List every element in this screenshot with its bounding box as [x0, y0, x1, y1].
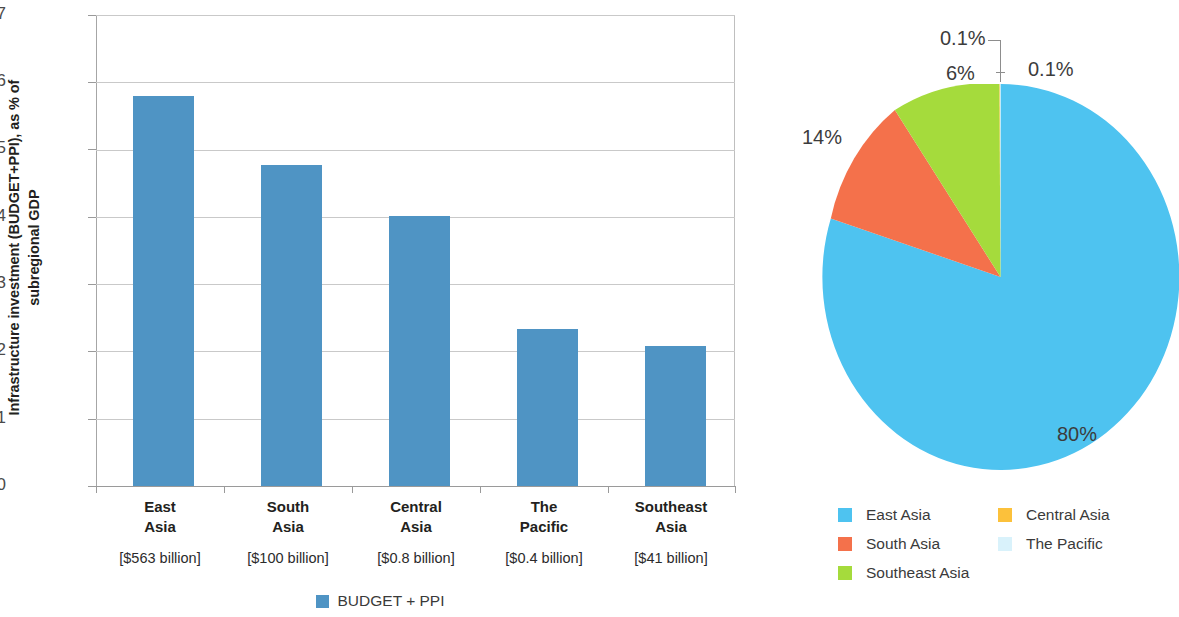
- x-label-the-pacific-line1: The: [531, 498, 558, 515]
- y-tick-mark-4: [88, 217, 96, 218]
- x-sublabel-central-asia: [$0.8 billion]: [346, 550, 486, 566]
- pie-legend-label-southeast-asia: Southeast Asia: [866, 564, 969, 582]
- pie-value-southeast-asia: 6%: [946, 62, 975, 85]
- pie-legend-label-south-asia: South Asia: [866, 535, 940, 553]
- pie-chart-legend: East Asia Central Asia South Asia The Pa…: [838, 500, 1168, 587]
- pie-legend-label-central-asia: Central Asia: [1026, 506, 1110, 524]
- bar-the-pacific[interactable]: [517, 329, 578, 486]
- x-tick-mark-1: [224, 486, 225, 493]
- pie-value-east-asia: 80%: [1057, 423, 1097, 446]
- gridline-7: [96, 15, 735, 16]
- y-tick-label-1: 1: [0, 408, 6, 428]
- x-label-southeast-asia: Southeast Asia: [607, 497, 735, 538]
- leader-line-horizontal-outer: [988, 40, 1001, 41]
- x-label-south-asia: South Asia: [224, 497, 352, 538]
- bar-southeast-asia[interactable]: [645, 346, 706, 486]
- pie-legend-item-the-pacific[interactable]: The Pacific: [998, 535, 1168, 553]
- pie-legend-item-central-asia[interactable]: Central Asia: [998, 506, 1168, 524]
- pie-legend-swatch-the-pacific: [998, 537, 1012, 551]
- y-tick-label-4: 4: [0, 206, 6, 226]
- y-tick-mark-1: [88, 419, 96, 420]
- leader-line-horizontal-inner: [996, 72, 1005, 73]
- pie-legend-swatch-east-asia: [838, 508, 852, 522]
- pie-svg: [822, 84, 1179, 470]
- x-label-the-pacific-line2: Pacific: [520, 518, 568, 535]
- y-tick-label-2: 2: [0, 340, 6, 360]
- x-label-the-pacific: The Pacific: [480, 497, 608, 538]
- y-tick-label-7: 7: [0, 4, 6, 24]
- y-tick-mark-2: [88, 351, 96, 352]
- x-tick-mark-0: [96, 486, 97, 493]
- pie-legend-item-east-asia[interactable]: East Asia: [838, 506, 998, 524]
- pie-legend-item-south-asia[interactable]: South Asia: [838, 535, 998, 553]
- x-label-central-asia: Central Asia: [352, 497, 480, 538]
- legend-swatch-budget-ppi: [316, 595, 329, 608]
- x-tick-mark-5: [735, 486, 736, 493]
- x-label-east-asia-line2: Asia: [144, 518, 176, 535]
- pie-value-the-pacific: 0.1%: [1028, 58, 1074, 81]
- x-label-central-asia-line1: Central: [390, 498, 442, 515]
- pie-legend-swatch-south-asia: [838, 537, 852, 551]
- x-tick-mark-2: [352, 486, 353, 493]
- bar-chart-figure: Infrastructure investment (BUDGET+PPI), …: [0, 0, 760, 617]
- x-label-central-asia-line2: Asia: [400, 518, 432, 535]
- gridline-6: [96, 82, 735, 83]
- x-label-southeast-asia-line2: Asia: [655, 518, 687, 535]
- y-tick-mark-0: [88, 486, 96, 487]
- y-tick-label-5: 5: [0, 138, 6, 158]
- y-tick-mark-3: [88, 284, 96, 285]
- bar-east-asia[interactable]: [133, 96, 194, 486]
- pie-legend-swatch-southeast-asia: [838, 566, 852, 580]
- x-axis-line: [96, 486, 735, 487]
- x-sublabel-east-asia: [$563 billion]: [90, 550, 230, 566]
- y-tick-label-3: 3: [0, 273, 6, 293]
- y-tick-label-6: 6: [0, 71, 6, 91]
- bar-central-asia[interactable]: [389, 216, 450, 486]
- x-label-south-asia-line1: South: [267, 498, 310, 515]
- pie-legend-label-the-pacific: The Pacific: [1026, 535, 1103, 553]
- x-sublabel-south-asia: [$100 billion]: [218, 550, 358, 566]
- x-label-east-asia-line1: East: [144, 498, 176, 515]
- y-axis-title: Infrastructure investment (BUDGET+PPI), …: [5, 48, 44, 448]
- pie-value-south-asia: 14%: [802, 126, 842, 149]
- x-sublabel-the-pacific: [$0.4 billion]: [474, 550, 614, 566]
- x-sublabel-southeast-asia: [$41 billion]: [601, 550, 741, 566]
- x-tick-mark-4: [608, 486, 609, 493]
- leader-line-vertical-outer: [1000, 40, 1001, 82]
- x-label-southeast-asia-line1: Southeast: [635, 498, 708, 515]
- y-tick-mark-7: [88, 15, 96, 16]
- x-label-east-asia: East Asia: [96, 497, 224, 538]
- legend-label-budget-ppi: BUDGET + PPI: [338, 592, 445, 610]
- pie-legend-swatch-central-asia: [998, 508, 1012, 522]
- pie-legend-label-east-asia: East Asia: [866, 506, 931, 524]
- y-tick-label-0: 0: [0, 475, 6, 495]
- bar-plot-area: [96, 15, 735, 486]
- plot-right-border: [734, 15, 735, 486]
- y-tick-mark-5: [88, 149, 96, 150]
- pie-legend-item-southeast-asia[interactable]: Southeast Asia: [838, 564, 998, 582]
- x-label-south-asia-line2: Asia: [272, 518, 304, 535]
- y-axis-line: [96, 15, 97, 486]
- bar-south-asia[interactable]: [261, 165, 322, 486]
- x-tick-mark-3: [480, 486, 481, 493]
- bar-chart-legend: BUDGET + PPI: [0, 592, 760, 610]
- pie-graphic: [822, 84, 1179, 470]
- y-tick-mark-6: [88, 82, 96, 83]
- pie-value-central-asia: 0.1%: [940, 27, 986, 50]
